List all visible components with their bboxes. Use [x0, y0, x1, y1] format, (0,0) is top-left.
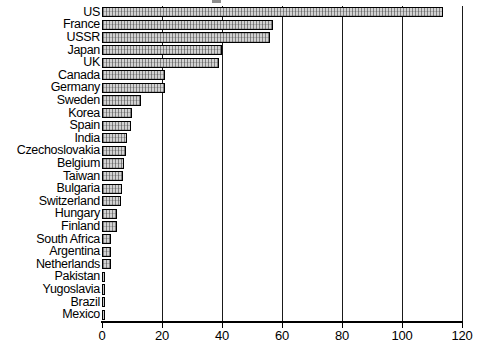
x-tick-label-40: 40	[202, 329, 242, 343]
bar-row: Yugoslavia	[0, 283, 479, 296]
bar-yugoslavia	[102, 284, 105, 294]
horizontal-bar-chart: USFranceUSSRJapanUKCanadaGermanySwedenKo…	[0, 0, 479, 350]
bar-row: Spain	[0, 119, 479, 132]
bar-sweden	[102, 95, 141, 105]
bar-germany	[102, 83, 165, 93]
bar-hungary	[102, 209, 117, 219]
bar-canada	[102, 70, 165, 80]
bar-switzerland	[102, 196, 121, 206]
bar-india	[102, 133, 127, 143]
bar-netherlands	[102, 259, 111, 269]
x-tick-label-20: 20	[142, 329, 182, 343]
bar-japan	[102, 45, 222, 55]
bar-ussr	[102, 32, 270, 42]
bar-us	[102, 7, 443, 17]
x-tick-label-100: 100	[382, 329, 422, 343]
category-label-mexico: Mexico	[62, 308, 100, 321]
bar-row: USSR	[0, 31, 479, 44]
bar-argentina	[102, 247, 111, 257]
x-tick-label-80: 80	[322, 329, 362, 343]
bar-mexico	[102, 310, 105, 320]
bar-france	[102, 20, 273, 30]
bar-row: Sweden	[0, 94, 479, 107]
bar-pakistan	[102, 272, 105, 282]
bar-row: Japan	[0, 44, 479, 57]
bar-bulgaria	[102, 184, 122, 194]
bar-belgium	[102, 158, 124, 168]
x-tick-label-120: 120	[442, 329, 479, 343]
bar-taiwan	[102, 171, 123, 181]
x-tick-label-60: 60	[262, 329, 302, 343]
bar-row: Finland	[0, 220, 479, 233]
bar-uk	[102, 58, 219, 68]
bar-south-africa	[102, 234, 111, 244]
bar-row: Mexico	[0, 308, 479, 321]
bar-spain	[102, 121, 131, 131]
bar-korea	[102, 108, 132, 118]
bar-brazil	[102, 297, 105, 307]
bar-czechoslovakia	[102, 146, 126, 156]
cropped-title-remnant	[212, 0, 221, 3]
bar-row: Belgium	[0, 157, 479, 170]
bar-finland	[102, 221, 117, 231]
x-tick-label-0: 0	[82, 329, 122, 343]
